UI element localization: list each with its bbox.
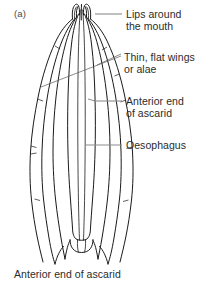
surface-tick-left-2: [31, 146, 37, 148]
surface-tick-left-4: [35, 199, 41, 201]
oesophagus-lumen-left: [78, 10, 81, 240]
oesophagus-bulb-base: [73, 228, 91, 240]
callout-anterior-end-of-ascarid: Anterior end of ascarid: [126, 95, 184, 119]
leader-lines: [41, 14, 122, 145]
callout-lips-around-the-mouth: Lips around the mouth: [126, 8, 181, 32]
posterior-body-left: [65, 241, 70, 260]
surface-tick-left-3: [31, 153, 37, 154]
body-wall-right: [87, 17, 111, 259]
bulb-septum-right: [85, 240, 86, 252]
panel-label: (a): [14, 8, 26, 19]
surface-tick-right-3: [123, 200, 129, 202]
oesophagus-wall-right: [85, 14, 96, 228]
posterior-body-right: [93, 241, 98, 260]
callout-oesophagus: Oesophagus: [126, 139, 186, 151]
body-wall-left: [53, 17, 77, 259]
oesophagus-lumen-right: [83, 10, 86, 240]
oesophageal-bulb: [70, 240, 93, 253]
surface-tick-right-5: [115, 74, 120, 76]
lateral-ala-right-inner: [89, 19, 122, 264]
posterior-ala-right: [100, 247, 109, 265]
leader-anterior-stub: [88, 99, 95, 101]
lateral-ala-left-inner: [42, 19, 75, 264]
bulb-septum-left: [77, 240, 78, 252]
organism-drawing: [30, 4, 133, 264]
oesophagus-wall-left: [68, 14, 79, 228]
posterior-ala-left: [55, 247, 64, 265]
figure-caption: Anterior end of ascarid: [14, 268, 121, 280]
surface-tick-left-1: [38, 99, 44, 101]
ascarid-anterior-figure: (a) Lips around the mouth Thin, flat win…: [0, 0, 208, 292]
lateral-ala-left-outer: [30, 19, 73, 262]
callout-thin-flat-wings-or-alae: Thin, flat wings or alae: [124, 51, 195, 75]
